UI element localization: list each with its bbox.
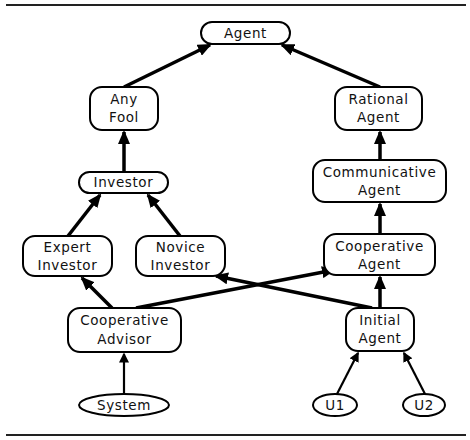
edge-u2-initial: [404, 353, 425, 394]
edge-initial-novice: [216, 276, 372, 308]
node-label: System: [97, 397, 151, 413]
node-rational-agent[interactable]: Rational Agent: [335, 87, 422, 130]
node-label: Investor: [38, 257, 98, 273]
node-novice-investor[interactable]: Novice Investor: [136, 236, 225, 276]
node-label: Communicative: [323, 164, 437, 180]
node-label: Cooperative: [335, 238, 424, 254]
edge-anyfool-agent: [124, 45, 210, 87]
node-label: Agent: [359, 330, 402, 346]
edge-novice-investor: [148, 195, 180, 236]
node-label: Novice: [156, 239, 205, 255]
node-label: Agent: [358, 182, 401, 198]
node-initial-agent[interactable]: Initial Agent: [346, 308, 414, 351]
edge-u1-initial: [337, 353, 358, 394]
node-label: Any: [110, 91, 138, 107]
node-label: Agent: [358, 256, 401, 272]
node-cooperative-advisor[interactable]: Cooperative Advisor: [68, 308, 181, 352]
node-u2[interactable]: U2: [403, 394, 445, 416]
node-label: Agent: [357, 109, 400, 125]
edge-expert-investor: [68, 195, 100, 236]
node-communicative-agent[interactable]: Communicative Agent: [313, 160, 446, 202]
node-u1[interactable]: U1: [313, 394, 357, 416]
node-cooperative-agent[interactable]: Cooperative Agent: [324, 234, 435, 275]
node-label: Agent: [224, 25, 267, 41]
node-label: Investor: [151, 257, 211, 273]
edge-rational-agent: [282, 45, 380, 87]
node-any-fool[interactable]: Any Fool: [90, 87, 158, 130]
edge-advisor-expert: [82, 278, 112, 308]
node-system[interactable]: System: [79, 394, 169, 416]
node-label: U2: [414, 397, 434, 413]
node-label: Expert: [44, 239, 92, 255]
node-agent[interactable]: Agent: [201, 22, 290, 44]
node-label: Initial: [359, 312, 401, 328]
node-label: Cooperative: [80, 312, 169, 328]
inheritance-diagram: Agent Any Fool Rational Agent Investor C…: [0, 0, 470, 440]
node-investor[interactable]: Investor: [79, 172, 168, 193]
node-label: Investor: [94, 174, 154, 190]
node-label: Fool: [109, 109, 139, 125]
node-label: Rational: [348, 91, 408, 107]
node-label: Advisor: [97, 331, 151, 347]
node-label: U1: [325, 397, 345, 413]
node-expert-investor[interactable]: Expert Investor: [23, 236, 112, 276]
